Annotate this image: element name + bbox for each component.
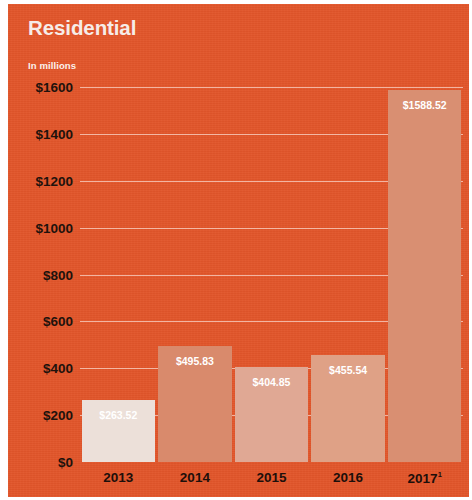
units-label: In millions — [28, 60, 76, 71]
plot-area: $0$200$400$600$800$1000$1200$1400$1600$2… — [8, 4, 469, 497]
y-axis-tick-label: $1200 — [8, 173, 73, 188]
y-axis-tick-label: $0 — [8, 455, 73, 470]
bar-value-label: $404.85 — [235, 376, 309, 388]
chart-panel: Residential In millions $0$200$400$600$8… — [8, 4, 469, 497]
x-axis-tick-label-2016: 2016 — [310, 470, 387, 485]
bar-2017[interactable]: $1588.52 — [388, 90, 462, 462]
footnote-marker: 1 — [438, 470, 442, 479]
y-axis-tick-label: $800 — [8, 267, 73, 282]
bar-value-label: $495.83 — [158, 355, 232, 367]
bar-2014[interactable]: $495.83 — [158, 346, 232, 462]
x-axis-tick-label-2015: 2015 — [233, 470, 310, 485]
y-axis-tick-label: $600 — [8, 314, 73, 329]
x-axis-tick-label-2014: 2014 — [157, 470, 234, 485]
chart-figure: Residential In millions $0$200$400$600$8… — [0, 0, 472, 500]
bar-2016[interactable]: $455.54 — [311, 355, 385, 462]
page-title: Residential — [28, 16, 136, 40]
x-axis-tick-label-2017: 20171 — [386, 470, 463, 486]
y-axis-tick-label: $400 — [8, 361, 73, 376]
y-axis-tick-label: $1600 — [8, 80, 73, 95]
gridline-1600 — [80, 87, 463, 88]
y-axis-tick-label: $200 — [8, 408, 73, 423]
y-axis-tick-label: $1400 — [8, 126, 73, 141]
bar-value-label: $455.54 — [311, 364, 385, 376]
bar-2015[interactable]: $404.85 — [235, 367, 309, 462]
bar-value-label: $1588.52 — [388, 99, 462, 111]
y-axis-tick-label: $1000 — [8, 220, 73, 235]
bar-2013[interactable]: $263.52 — [82, 400, 156, 462]
x-axis-tick-label-2013: 2013 — [80, 470, 157, 485]
bar-value-label: $263.52 — [82, 409, 156, 421]
